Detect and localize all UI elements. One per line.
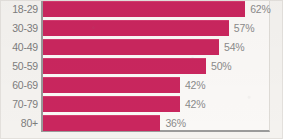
bar <box>43 115 160 131</box>
value-label: 50% <box>211 60 231 72</box>
bar <box>43 77 180 93</box>
bar <box>43 39 219 55</box>
value-label: 36% <box>165 117 185 129</box>
table-row: 60-69 42% <box>0 78 283 93</box>
bar <box>43 58 206 74</box>
category-label: 18-29 <box>0 3 38 15</box>
bar-rows-container: 18-29 62% 30-39 57% 40-49 54% 50-59 <box>0 0 283 131</box>
value-label: 57% <box>234 22 254 34</box>
value-label: 42% <box>185 98 205 110</box>
bar <box>43 96 180 112</box>
bar-row-5: 42% <box>43 97 205 112</box>
table-row: 30-39 57% <box>0 20 283 35</box>
table-row: 50-59 50% <box>0 58 283 73</box>
category-label: 40-49 <box>0 41 38 53</box>
bar <box>43 1 245 17</box>
bar-row-6: 36% <box>43 116 186 131</box>
category-label: 70-79 <box>0 98 38 110</box>
category-label: 80+ <box>0 117 38 129</box>
category-label: 60-69 <box>0 79 38 91</box>
bar-row-1: 57% <box>43 20 254 35</box>
table-row: 40-49 54% <box>0 39 283 54</box>
value-label: 62% <box>250 3 270 15</box>
bar-row-0: 62% <box>43 1 271 16</box>
bar-row-3: 50% <box>43 58 231 73</box>
value-label: 54% <box>224 41 244 53</box>
bar-row-2: 54% <box>43 39 245 54</box>
bar-row-4: 42% <box>43 78 205 93</box>
table-row: 70-79 42% <box>0 97 283 112</box>
category-label: 30-39 <box>0 22 38 34</box>
table-row: 80+ 36% <box>0 116 283 131</box>
value-label: 42% <box>185 79 205 91</box>
bar-chart: 18-29 62% 30-39 57% 40-49 54% 50-59 <box>0 0 283 139</box>
category-label: 50-59 <box>0 60 38 72</box>
table-row: 18-29 62% <box>0 1 283 16</box>
bar <box>43 20 229 36</box>
